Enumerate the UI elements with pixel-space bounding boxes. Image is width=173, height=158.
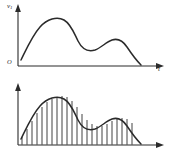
envelope-curve	[21, 97, 141, 144]
sampling-impulse-lines	[22, 96, 132, 145]
y-axis-label-top: v1	[7, 3, 13, 10]
panel-continuous-signal: v1 O t	[0, 0, 173, 79]
continuous-signal-plot	[0, 0, 173, 79]
signal-curve	[21, 18, 141, 65]
x-axis-label-top: t	[158, 66, 160, 73]
sampled-signal-plot	[0, 79, 173, 158]
x-axis	[18, 63, 164, 69]
origin-label-top: O	[7, 59, 12, 66]
y-axis	[15, 4, 21, 66]
signal-sampling-figure: v1 O t	[0, 0, 173, 158]
panel-sampled-signal: vs O t	[0, 79, 173, 158]
x-axis	[18, 142, 164, 148]
y-axis	[15, 83, 21, 145]
